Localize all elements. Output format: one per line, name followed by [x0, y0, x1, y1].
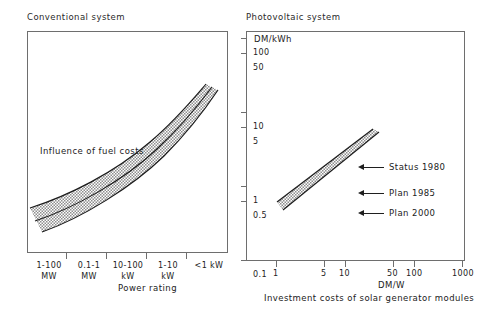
xtick-pv-5: 5 — [321, 269, 327, 278]
annotation-plan-2000-label: Plan 2000 — [389, 208, 435, 218]
arrow-left-icon — [358, 164, 384, 171]
xtick-left-1: 0.1-1 MW — [70, 261, 108, 282]
xtick-left-0: 1-100 MW — [30, 261, 68, 282]
xtick-left-4: <1 kW — [189, 261, 229, 272]
arrow-left-icon — [358, 210, 384, 217]
ytick-100: 100 — [253, 48, 269, 57]
xtick-left-1-line2: MW — [70, 272, 108, 283]
panel-title-conventional: Conventional system — [27, 12, 125, 22]
xtick-left-2-line2: kW — [108, 272, 148, 283]
xaxis-caption-conventional: Power rating — [118, 283, 177, 293]
influence-of-fuel-costs-label: Influence of fuel costs — [40, 146, 144, 156]
ytick-0-1: 0.1 — [253, 270, 267, 279]
annotation-plan-2000: Plan 2000 — [358, 208, 435, 218]
xaxis-caption-photovoltaic: Investment costs of solar generator modu… — [264, 293, 474, 303]
ytick-5: 5 — [253, 137, 259, 146]
plot-area-conventional — [27, 31, 228, 253]
ytick-50: 50 — [253, 63, 264, 72]
xtick-pv-1: 1 — [273, 269, 279, 278]
xtick-pv-1000: 1000 — [452, 269, 474, 278]
xtick-left-3-line1: 1-10 — [149, 261, 187, 272]
xtick-pv-50: 50 — [387, 269, 398, 278]
arrow-left-icon — [358, 190, 384, 197]
xtick-left-3: 1-10 kW — [149, 261, 187, 282]
ytick-1: 1 — [253, 196, 259, 205]
annotation-plan-1985: Plan 1985 — [358, 188, 435, 198]
panel-title-photovoltaic: Photovoltaic system — [246, 12, 340, 22]
xtick-left-2-line1: 10-100 — [108, 261, 148, 272]
xaxis-unit-label: DM/W — [378, 280, 405, 290]
ytick-0-5: 0.5 — [253, 211, 267, 220]
xtick-left-2: 10-100 kW — [108, 261, 148, 282]
fuel-cost-band — [30, 84, 218, 232]
xtick-pv-10: 10 — [339, 269, 350, 278]
yaxis-unit-label: DM/kWh — [254, 34, 292, 44]
annotation-status-1980: Status 1980 — [358, 162, 445, 172]
xtick-pv-100: 100 — [406, 269, 422, 278]
annotation-status-1980-label: Status 1980 — [389, 162, 445, 172]
xtick-left-0-line2: MW — [30, 272, 68, 283]
annotation-plan-1985-label: Plan 1985 — [389, 188, 435, 198]
conventional-curve-svg — [28, 32, 227, 252]
xtick-left-3-line2: kW — [149, 272, 187, 283]
ytick-10: 10 — [253, 122, 264, 131]
xtick-left-1-line1: 0.1-1 — [70, 261, 108, 272]
xtick-left-0-line1: 1-100 — [30, 261, 68, 272]
xtick-left-4-line1: <1 kW — [189, 261, 229, 272]
photovoltaic-band-svg — [247, 32, 464, 260]
plot-area-photovoltaic — [246, 31, 465, 261]
